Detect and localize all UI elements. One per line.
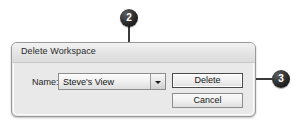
delete-button[interactable]: Delete (172, 73, 243, 88)
dialog-title: Delete Workspace (21, 46, 96, 56)
cancel-button[interactable]: Cancel (172, 93, 243, 108)
chevron-down-icon (155, 81, 161, 84)
delete-workspace-dialog: Delete Workspace Name: Steve's View Dele… (11, 42, 256, 117)
workspace-name-dropdown[interactable]: Steve's View (58, 73, 166, 90)
dropdown-arrow-button[interactable] (150, 74, 165, 89)
name-field-label: Name: (32, 77, 59, 87)
callout-badge-2: 2 (120, 9, 138, 27)
callout-badge-3: 3 (272, 70, 290, 88)
workspace-name-dropdown-value: Steve's View (63, 77, 114, 87)
